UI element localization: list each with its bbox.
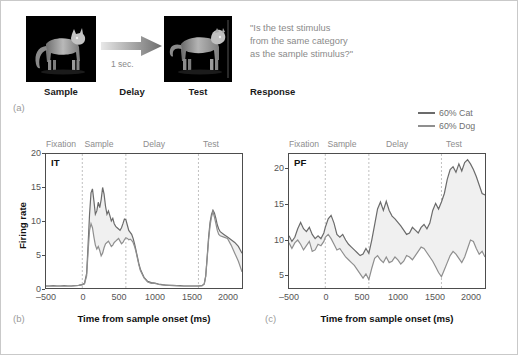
delay-duration-label: 1 sec.	[111, 59, 134, 69]
pf-ytickmark-15	[285, 204, 288, 205]
right-arrow-icon	[101, 35, 163, 57]
pf-ytick-5: 5	[263, 270, 284, 280]
test-caption: Test	[164, 86, 232, 97]
it-epoch-sample: Sample	[79, 139, 119, 149]
it-difference-area	[46, 188, 242, 286]
it-ytick-5: 5	[19, 250, 41, 260]
it-x-axis-title: Time from sample onset (ms)	[45, 313, 243, 324]
it-plot-area: IT	[45, 153, 243, 289]
panel-label-b: (b)	[13, 313, 25, 324]
pf-epoch-delay: Delay	[375, 139, 419, 149]
pf-xtick-2000: 2000	[456, 292, 486, 302]
delay-caption: Delay	[102, 86, 162, 97]
it-ytickmark-5	[42, 255, 45, 256]
it-epoch-test: Test	[191, 139, 231, 149]
delay-arrow	[101, 35, 163, 57]
pf-difference-area	[289, 160, 485, 280]
cat-silhouette-icon	[26, 16, 96, 82]
it-xtick-500: 500	[104, 292, 134, 302]
pf-epoch-test: Test	[434, 139, 474, 149]
pf-ytickmark-10	[285, 240, 288, 241]
dog-silhouette-icon	[164, 16, 232, 82]
pf-plot-svg	[289, 154, 485, 288]
pf-xtick-1500: 1500	[420, 292, 450, 302]
legend-label-dog: 60% Dog	[439, 121, 475, 131]
it-xtick-1000: 1000	[140, 292, 170, 302]
legend: 60% Cat 60% Dog	[418, 107, 475, 133]
legend-swatch-dog	[418, 125, 435, 127]
pf-xtick-500: 500	[347, 292, 377, 302]
response-caption: Response	[250, 86, 340, 97]
legend-item-cat: 60% Cat	[418, 107, 475, 118]
response-question-text: "Is the test stimulus from the same cate…	[250, 22, 410, 62]
legend-label-cat: 60% Cat	[439, 108, 473, 118]
panel-label-c: (c)	[265, 313, 276, 324]
pf-ytickmark-5	[285, 275, 288, 276]
pf-x-axis-title: Time from sample onset (ms)	[288, 313, 486, 324]
pf-ytickmark-20	[285, 168, 288, 169]
it-ytick-10: 10	[19, 216, 41, 226]
chart-pf: Fixation Sample Delay Test PF 20 15 10 5…	[263, 137, 518, 337]
pf-epoch-fixation: Fixation	[284, 139, 324, 149]
it-epoch-fixation: Fixation	[41, 139, 81, 149]
it-ytick-15: 15	[19, 182, 41, 192]
chart-it: Firing rate Fixation Sample Delay Test I…	[1, 137, 259, 337]
it-plot-svg	[46, 154, 242, 288]
it-xtick-0: 0	[68, 292, 98, 302]
it-series-cat	[46, 188, 242, 286]
it-region-label: IT	[51, 157, 60, 168]
pf-xtick--500: –500	[274, 292, 304, 302]
it-xtick-2000: 2000	[213, 292, 243, 302]
test-stimulus-image	[164, 16, 232, 82]
legend-item-dog: 60% Dog	[418, 120, 475, 131]
pf-region-label: PF	[294, 157, 306, 168]
it-series-dog	[46, 212, 242, 286]
pf-ytick-10: 10	[263, 235, 284, 245]
it-ytickmark-0	[42, 289, 45, 290]
it-xtick-1500: 1500	[177, 292, 207, 302]
pf-plot-area: PF	[288, 153, 486, 289]
legend-swatch-cat	[418, 112, 435, 114]
pf-ytick-15: 15	[263, 199, 284, 209]
panel-label-a: (a)	[13, 102, 25, 113]
sample-stimulus-image	[26, 16, 96, 82]
it-ytickmark-15	[42, 187, 45, 188]
sample-caption: Sample	[26, 86, 96, 97]
pf-epoch-sample: Sample	[322, 139, 362, 149]
it-ytickmark-20	[42, 153, 45, 154]
figure-container: Sample 1 sec. Delay	[0, 0, 518, 355]
it-ytickmark-10	[42, 221, 45, 222]
it-xtick--500: –500	[31, 292, 61, 302]
pf-xtick-1000: 1000	[383, 292, 413, 302]
it-ytick-20: 20	[19, 148, 41, 158]
pf-ytick-20: 20	[263, 163, 284, 173]
it-epoch-delay: Delay	[132, 139, 176, 149]
pf-xtick-0: 0	[311, 292, 341, 302]
